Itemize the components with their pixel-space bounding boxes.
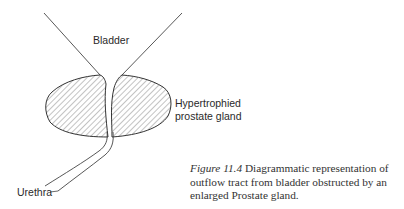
urethra-label: Urethra bbox=[17, 186, 52, 199]
prostate-right-lobe bbox=[112, 75, 171, 137]
prostate-label-line1: Hypertrophied bbox=[175, 97, 242, 110]
prostate-label-line2: prostate gland bbox=[175, 110, 242, 123]
urethra-right-wall bbox=[58, 132, 113, 191]
prostate-diagram: Bladder Hypertrophied prostate gland Ure… bbox=[0, 0, 404, 209]
bladder-label: Bladder bbox=[93, 34, 129, 47]
caption-line3: enlarged Prostate gland. bbox=[190, 189, 402, 203]
bladder-right-wall bbox=[122, 13, 182, 75]
urethra-left-wall bbox=[45, 132, 107, 186]
figure-number: Figure 11.4 bbox=[190, 162, 242, 174]
prostate-left-lobe bbox=[46, 75, 108, 137]
caption-line2: outflow tract from bladder obstructed by… bbox=[190, 176, 402, 190]
caption-text-1: Diagrammatic representation of bbox=[242, 162, 389, 174]
bladder-left-wall bbox=[44, 13, 100, 75]
prostate-label: Hypertrophied prostate gland bbox=[175, 97, 242, 122]
caption-line1: Figure 11.4 Diagrammatic representation … bbox=[190, 162, 402, 176]
figure-caption: Figure 11.4 Diagrammatic representation … bbox=[190, 162, 402, 203]
